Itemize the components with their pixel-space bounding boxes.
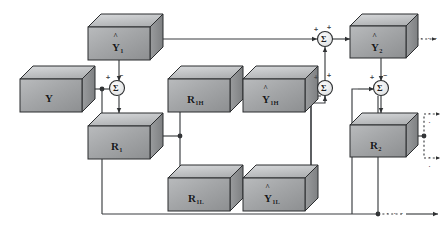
- sum-node-mid: [318, 81, 333, 96]
- sum-node-right: [374, 81, 389, 96]
- cube-R2: [350, 113, 418, 157]
- cube-R1H: [168, 66, 243, 112]
- cube-Y1: [88, 14, 163, 60]
- cube-R1: [88, 113, 163, 159]
- cube-R1L: [168, 165, 243, 211]
- wire-r2-branch-up: [424, 114, 440, 136]
- wire-r2-branch-down: [424, 136, 440, 158]
- cube-Y2: [350, 14, 418, 58]
- diagram-canvas: Y ^Y1 R1 R1H ^Y1H R1L ^Y1L ^Y2 R2 Σ Σ Σ …: [0, 0, 446, 237]
- sum-node-top: [318, 32, 333, 47]
- diagram-svg: [0, 0, 446, 237]
- cube-Y1H: [243, 66, 318, 112]
- cube-Y: [20, 66, 95, 112]
- sum-node-left: [110, 81, 125, 96]
- cube-Y1L: [243, 165, 318, 211]
- cube-layer: [20, 14, 418, 211]
